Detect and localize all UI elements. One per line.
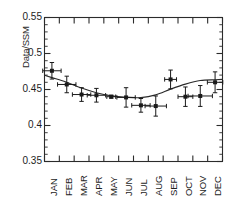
data-point-marker xyxy=(50,69,54,73)
data-point-marker xyxy=(94,93,98,97)
data-point-marker xyxy=(183,95,187,99)
data-point-marker xyxy=(124,95,128,99)
data-point-marker xyxy=(154,104,158,108)
data-point-marker xyxy=(198,94,202,98)
axis-ticks xyxy=(45,18,223,162)
error-bars xyxy=(43,63,223,117)
data-point-marker xyxy=(169,77,173,81)
data-point-marker xyxy=(139,103,143,107)
axes-frame xyxy=(45,18,223,162)
data-point-marker xyxy=(213,80,217,84)
fit-curve xyxy=(45,75,223,98)
chart-figure: Data/SSM 0.55 0.5 0.45 0.4 0.35 JAN FEB … xyxy=(0,0,236,199)
data-point-marker xyxy=(65,82,69,86)
plot-area xyxy=(0,0,236,199)
data-point-marker xyxy=(80,93,84,97)
data-point-marker xyxy=(109,95,113,99)
data-points xyxy=(50,69,217,108)
